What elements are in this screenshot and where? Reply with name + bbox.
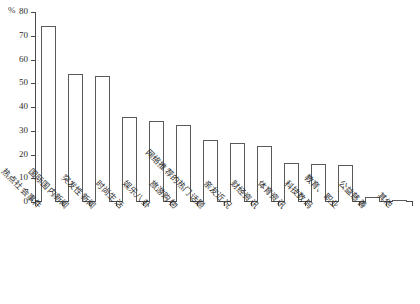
y-axis-tick-label: 30 <box>19 125 28 136</box>
y-axis-tick: 20 <box>31 155 35 156</box>
chart-container: % 01020304050607080 热点社会事件国际国内新闻突发性新闻时尚生… <box>0 0 420 304</box>
y-axis-tick-label: 70 <box>19 30 28 41</box>
y-axis-tick: 70 <box>31 36 35 37</box>
y-axis-tick-label: 80 <box>19 6 28 17</box>
y-axis-tick-label: 60 <box>19 54 28 65</box>
x-axis-category-labels: 热点社会事件国际国内新闻突发性新闻时尚生活娱乐八卦旅游购物网络推荐的热门话题亲友… <box>35 204 420 304</box>
y-axis-tick: 50 <box>31 83 35 84</box>
y-axis-tick: 80 <box>31 12 35 13</box>
y-axis-tick: 40 <box>31 107 35 108</box>
y-axis-tick: 60 <box>31 60 35 61</box>
y-axis-tick-label: 20 <box>19 149 28 160</box>
plot-area: 01020304050607080 <box>35 12 413 202</box>
y-axis-unit-label: % <box>8 5 16 15</box>
y-axis-tick-label: 40 <box>19 101 28 112</box>
y-axis-tick-label: 50 <box>19 77 28 88</box>
y-axis-tick: 30 <box>31 131 35 132</box>
